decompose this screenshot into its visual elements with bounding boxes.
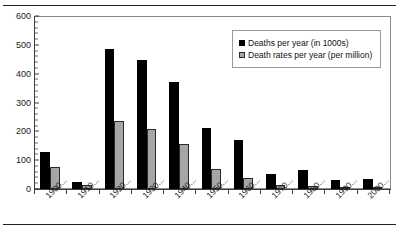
y-tick-label: 200 <box>16 127 35 136</box>
x-tick-mark <box>131 190 132 194</box>
figure-bottom-rule <box>3 224 396 225</box>
bar <box>169 82 179 189</box>
legend-label-deaths: Deaths per year (in 1000s) <box>248 38 349 48</box>
x-tick-mark <box>163 190 164 194</box>
x-tick-mark <box>195 190 196 194</box>
x-tick-mark <box>34 190 35 194</box>
legend-label-death-rates: Death rates per year (per million) <box>248 50 372 60</box>
bar <box>202 128 212 189</box>
gray-square-swatch-icon <box>239 52 245 58</box>
figure-top-rule <box>3 5 396 6</box>
bar <box>105 49 115 189</box>
bar <box>137 60 147 189</box>
y-tick-label: 400 <box>16 69 35 78</box>
y-tick-label: 100 <box>16 156 35 165</box>
x-tick-mark <box>389 190 390 194</box>
y-tick-label: 500 <box>16 40 35 49</box>
bar <box>234 140 244 189</box>
chart-figure: 0100200300400500600 Deaths per year (in … <box>0 0 401 233</box>
black-square-swatch-icon <box>239 40 245 46</box>
chart-legend: Deaths per year (in 1000s) Death rates p… <box>232 30 381 68</box>
x-tick-mark <box>324 190 325 194</box>
x-tick-mark <box>260 190 261 194</box>
x-tick-mark <box>99 190 100 194</box>
y-tick-label: 300 <box>16 98 35 107</box>
x-tick-mark <box>66 190 67 194</box>
x-tick-mark <box>228 190 229 194</box>
bar <box>40 152 50 189</box>
legend-entry-deaths: Deaths per year (in 1000s) <box>239 38 372 48</box>
y-tick-label: 600 <box>16 12 35 21</box>
legend-entry-death-rates: Death rates per year (per million) <box>239 50 372 60</box>
x-tick-mark <box>292 190 293 194</box>
x-tick-mark <box>357 190 358 194</box>
